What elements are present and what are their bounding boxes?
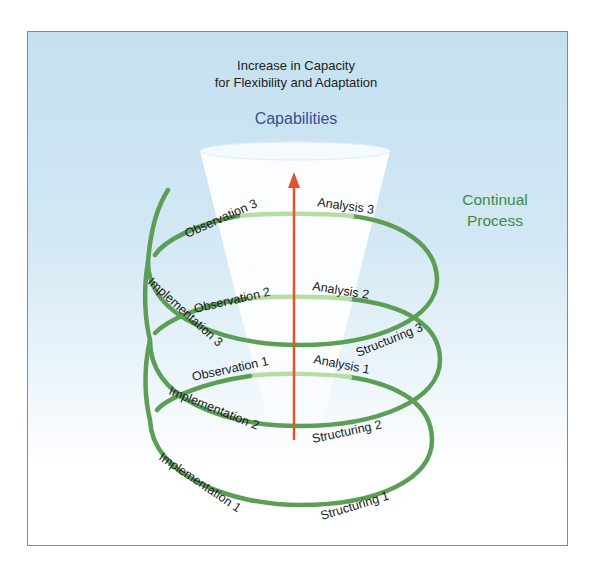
label-implementation-2: Implementation 2	[167, 384, 261, 433]
label-implementation-1: Implementation 1	[156, 450, 243, 515]
title-line-2: for Flexibility and Adaptation	[0, 74, 592, 91]
process-label: Process	[440, 211, 550, 231]
capabilities-label: Capabilities	[0, 110, 592, 128]
label-structuring-1: Structuring 1	[319, 489, 391, 523]
label-implementation-3: Implementation 3	[145, 275, 226, 350]
title-line-1: Increase in Capacity	[0, 57, 592, 74]
continual-label: Continual	[440, 190, 550, 210]
